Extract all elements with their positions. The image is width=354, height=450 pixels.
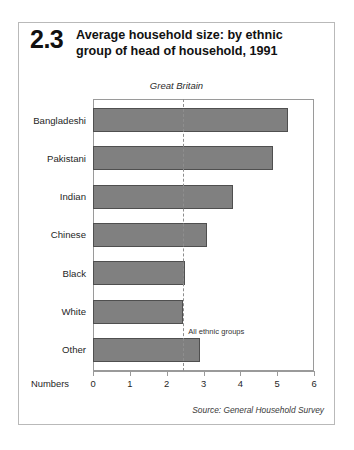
figure-card: 2.3 Average household size: by ethnic gr…: [18, 22, 335, 425]
bar-row: Chinese: [93, 223, 314, 247]
bar-category-label: Black: [63, 268, 86, 279]
bar: [93, 300, 183, 324]
page-background: 2.3 Average household size: by ethnic gr…: [0, 0, 354, 450]
figure-header: 2.3 Average household size: by ethnic gr…: [19, 23, 334, 73]
reference-line-all-ethnic-groups: [183, 99, 184, 371]
x-axis-tick: [277, 371, 278, 376]
x-axis-label: Numbers: [31, 378, 69, 389]
x-axis-tick-label: 6: [311, 378, 316, 389]
bar: [93, 261, 185, 285]
bar-category-label: Chinese: [51, 229, 86, 240]
bar-row: Other: [93, 338, 314, 362]
chart-subtitle: Great Britain: [19, 80, 334, 91]
bar-row: Pakistani: [93, 146, 314, 170]
figure-number: 2.3: [30, 27, 63, 52]
x-axis-tick-label: 2: [164, 378, 169, 389]
x-axis-tick-label: 3: [201, 378, 206, 389]
reference-line-label: All ethnic groups: [188, 327, 244, 336]
bar-category-label: Other: [62, 344, 86, 355]
x-axis-tick-label: 4: [238, 378, 243, 389]
bar-row: Black: [93, 261, 314, 285]
x-axis-tick-label: 1: [127, 378, 132, 389]
x-axis: 0123456: [93, 371, 314, 401]
x-axis-tick: [93, 371, 94, 376]
x-axis-tick: [167, 371, 168, 376]
x-axis-tick-label: 0: [90, 378, 95, 389]
bar-category-label: Indian: [60, 191, 86, 202]
bar-category-label: Pakistani: [47, 153, 86, 164]
bar-row: White: [93, 300, 314, 324]
source-note: Source: General Household Survey: [192, 405, 324, 415]
x-axis-tick: [314, 371, 315, 376]
bar-row: Bangladeshi: [93, 108, 314, 132]
bar-row: Indian: [93, 185, 314, 209]
bar: [93, 108, 288, 132]
page-title: Average household size: by ethnic group …: [76, 27, 324, 59]
bar-category-label: White: [61, 306, 86, 317]
figure-title-line-1: Average household size: by ethnic: [76, 27, 324, 43]
x-axis-tick: [130, 371, 131, 376]
x-axis-tick: [204, 371, 205, 376]
bar-category-label: Bangladeshi: [33, 115, 86, 126]
x-axis-tick-label: 5: [275, 378, 280, 389]
plot-area: BangladeshiPakistaniIndianChineseBlackWh…: [93, 99, 314, 371]
bar: [93, 223, 207, 247]
bar: [93, 185, 233, 209]
x-axis-tick: [240, 371, 241, 376]
figure-title-line-2: group of head of household, 1991: [76, 43, 324, 59]
